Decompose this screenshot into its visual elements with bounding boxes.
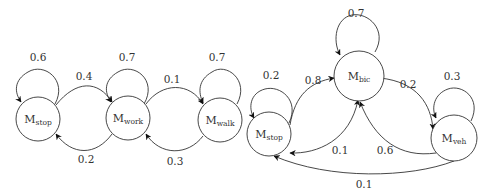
- state-node-stop-right: Mstop: [247, 112, 291, 156]
- node-label-sub: bic: [359, 75, 370, 84]
- state-node-bic: Mbic: [334, 51, 384, 101]
- edge-label-work-to-stop: 0.2: [78, 153, 95, 165]
- node-label-sub: veh: [452, 137, 467, 146]
- edge-bic-self-loop: [336, 15, 379, 55]
- node-label-sub: stop: [36, 118, 52, 127]
- edge-label-walk-self: 0.7: [209, 51, 226, 63]
- edge-label-stop-right-self: 0.2: [263, 69, 280, 81]
- edge-veh-to-stop: [274, 156, 454, 174]
- node-label-main: M: [24, 113, 35, 126]
- node-label-main: M: [205, 114, 216, 127]
- edge-work-to-walk: [146, 88, 203, 105]
- edge-label-veh-to-bic: 0.6: [377, 144, 394, 156]
- edge-label-bic-to-stop: 0.1: [332, 144, 349, 156]
- edge-label-stop-self: 0.6: [30, 51, 47, 63]
- edge-label-stop-to-bic: 0.8: [305, 74, 322, 86]
- node-label-main: M: [442, 132, 453, 145]
- node-label-main: M: [255, 128, 266, 141]
- edge-label-walk-to-work: 0.3: [167, 155, 184, 167]
- node-label-main: M: [348, 70, 359, 83]
- edge-label-bic-self: 0.7: [348, 7, 365, 19]
- edge-label-work-to-walk: 0.1: [164, 73, 181, 85]
- edge-label-veh-to-stop: 0.1: [356, 178, 373, 190]
- node-label-main: M: [113, 112, 124, 125]
- edge-label-veh-self: 0.3: [444, 70, 461, 82]
- state-node-walk: Mwalk: [198, 98, 242, 142]
- edge-label-bic-to-veh: 0.2: [400, 78, 417, 90]
- state-node-stop: Mstop: [16, 97, 60, 141]
- left-markov-chain: 0.6 0.7 0.7 0.4 0.2 0.1 0.3 Mstop Mwork …: [16, 51, 242, 167]
- node-label-sub: work: [124, 117, 144, 126]
- edge-stop-to-work: [56, 86, 112, 105]
- edge-work-to-stop: [56, 134, 112, 151]
- edge-label-work-self: 0.7: [119, 51, 136, 63]
- state-node-veh: Mveh: [431, 115, 477, 161]
- edge-walk-to-work: [146, 134, 203, 151]
- state-node-work: Mwork: [106, 96, 150, 140]
- node-label-sub: stop: [267, 133, 283, 142]
- edge-label-stop-to-work: 0.4: [76, 70, 93, 82]
- markov-chain-diagram: 0.6 0.7 0.7 0.4 0.2 0.1 0.3 Mstop Mwork …: [0, 0, 489, 195]
- edge-veh-to-bic: [360, 102, 436, 154]
- right-markov-chain: 0.2 0.7 0.3 0.8 0.1 0.2 0.6 0.1 Mstop Mb…: [247, 7, 477, 190]
- node-label-sub: walk: [217, 119, 235, 128]
